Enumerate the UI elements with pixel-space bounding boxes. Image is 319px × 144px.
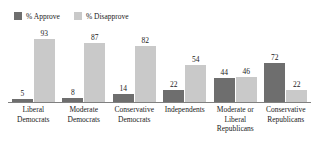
bar-value-disapprove: 54 xyxy=(192,55,200,64)
legend-label-disapprove: % Disapprove xyxy=(86,12,129,21)
bar-value-disapprove: 46 xyxy=(243,67,251,76)
bar-wrap-approve: 22 xyxy=(163,28,184,102)
bar-approve xyxy=(113,94,134,102)
category-line: Democrats xyxy=(9,115,58,125)
bar-wrap-disapprove: 93 xyxy=(34,28,55,102)
bar-value-approve: 5 xyxy=(20,89,24,98)
bar-wrap-approve: 72 xyxy=(264,28,285,102)
bar-wrap-disapprove: 54 xyxy=(185,28,206,102)
bar-group-conservative-democrats: 14 82 xyxy=(109,28,160,102)
category-line: Liberal xyxy=(9,105,58,115)
bar-disapprove xyxy=(185,65,206,102)
category-label-conservative-republicans: Conservative Republicans xyxy=(261,105,312,134)
category-line: Democrats xyxy=(60,115,109,125)
bar-value-disapprove: 22 xyxy=(293,80,301,89)
category-line: Moderate or xyxy=(211,105,260,115)
category-line: Liberal xyxy=(211,115,260,125)
bar-group-liberal-democrats: 5 93 xyxy=(8,28,59,102)
category-line: Conservative xyxy=(110,105,159,115)
bar-value-disapprove: 93 xyxy=(41,29,49,38)
bar-wrap-disapprove: 22 xyxy=(286,28,307,102)
x-axis-baseline xyxy=(8,102,311,103)
category-label-liberal-democrats: Liberal Democrats xyxy=(8,105,59,134)
bar-group-moderate-democrats: 8 87 xyxy=(59,28,110,102)
bar-group-conservative-republicans: 72 22 xyxy=(261,28,312,102)
category-line: Moderate xyxy=(60,105,109,115)
grouped-bar-chart: % Approve % Disapprove 5 93 8 87 xyxy=(0,0,319,144)
bar-group-independents: 22 54 xyxy=(160,28,211,102)
bar-value-approve: 8 xyxy=(71,88,75,97)
bar-disapprove xyxy=(84,43,105,102)
bar-value-approve: 44 xyxy=(221,68,229,77)
legend-label-approve: % Approve xyxy=(26,12,60,21)
category-label-moderate-or-liberal-republicans: Moderate or Liberal Republicans xyxy=(210,105,261,134)
bar-disapprove xyxy=(286,90,307,102)
category-line: Democrats xyxy=(110,115,159,125)
bar-disapprove xyxy=(135,46,156,102)
bar-disapprove xyxy=(34,39,55,102)
legend-swatch-approve xyxy=(14,12,22,20)
category-line: Conservative xyxy=(262,105,311,115)
bar-wrap-disapprove: 46 xyxy=(236,28,257,102)
bar-value-approve: 72 xyxy=(271,53,279,62)
bar-value-approve: 22 xyxy=(170,80,178,89)
bar-approve xyxy=(163,90,184,102)
x-axis-category-labels: Liberal Democrats Moderate Democrats Con… xyxy=(8,105,311,134)
bar-value-disapprove: 82 xyxy=(142,36,150,45)
category-line: Republicans xyxy=(262,115,311,125)
bar-approve xyxy=(214,78,235,102)
category-line: Independents xyxy=(161,105,210,115)
bar-group-moderate-or-liberal-republicans: 44 46 xyxy=(210,28,261,102)
bar-disapprove xyxy=(236,77,257,102)
category-label-moderate-democrats: Moderate Democrats xyxy=(59,105,110,134)
bar-value-disapprove: 87 xyxy=(91,33,99,42)
bar-wrap-approve: 44 xyxy=(214,28,235,102)
category-label-conservative-democrats: Conservative Democrats xyxy=(109,105,160,134)
legend-swatch-disapprove xyxy=(74,12,82,20)
bar-wrap-approve: 8 xyxy=(62,28,83,102)
bar-value-approve: 14 xyxy=(120,84,128,93)
bar-wrap-disapprove: 82 xyxy=(135,28,156,102)
legend-item-disapprove: % Disapprove xyxy=(74,12,129,21)
legend-item-approve: % Approve xyxy=(14,12,60,21)
plot-area: 5 93 8 87 14 82 xyxy=(8,28,311,102)
bar-wrap-disapprove: 87 xyxy=(84,28,105,102)
bar-wrap-approve: 5 xyxy=(12,28,33,102)
bar-wrap-approve: 14 xyxy=(113,28,134,102)
bar-approve xyxy=(264,63,285,102)
chart-legend: % Approve % Disapprove xyxy=(14,10,129,22)
category-label-independents: Independents xyxy=(160,105,211,134)
category-line: Republicans xyxy=(211,124,260,134)
